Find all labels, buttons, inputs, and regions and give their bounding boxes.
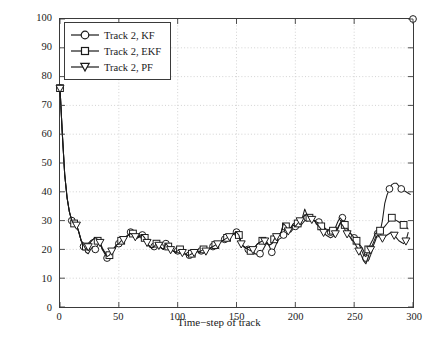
y-tick-label: 70 bbox=[0, 100, 52, 111]
y-tick-label: 20 bbox=[0, 245, 52, 256]
legend-label-ekf: Track 2, EKF bbox=[104, 46, 161, 57]
x-tick-label: 150 bbox=[229, 312, 245, 323]
y-tick-label: 100 bbox=[0, 13, 52, 24]
y-tick-label: 90 bbox=[0, 42, 52, 53]
figure-container: Track 2, KF Track 2, EKF Track 2, PF RMS… bbox=[0, 0, 438, 348]
y-tick-label: 80 bbox=[0, 71, 52, 82]
chart-legend: Track 2, KF Track 2, EKF Track 2, PF bbox=[64, 22, 171, 80]
x-tick-label: 300 bbox=[406, 312, 422, 323]
legend-marker-circle-icon bbox=[70, 28, 100, 42]
legend-label-kf: Track 2, KF bbox=[104, 30, 155, 41]
y-tick-label: 0 bbox=[0, 303, 52, 314]
x-tick-label: 0 bbox=[56, 312, 61, 323]
x-tick-label: 250 bbox=[347, 312, 363, 323]
legend-label-pf: Track 2, PF bbox=[104, 62, 153, 73]
plot-area: Track 2, KF Track 2, EKF Track 2, PF bbox=[59, 18, 414, 308]
x-tick-label: 100 bbox=[169, 312, 185, 323]
y-tick-label: 50 bbox=[0, 158, 52, 169]
y-tick-label: 10 bbox=[0, 274, 52, 285]
x-tick-label: 200 bbox=[288, 312, 304, 323]
y-tick-label: 60 bbox=[0, 129, 52, 140]
y-tick-label: 40 bbox=[0, 187, 52, 198]
legend-marker-triangle-icon bbox=[70, 60, 100, 74]
y-tick-label: 30 bbox=[0, 216, 52, 227]
legend-marker-square-icon bbox=[70, 44, 100, 58]
x-axis-label: Time−step of track bbox=[177, 316, 260, 328]
legend-item-pf: Track 2, PF bbox=[70, 59, 161, 75]
x-tick-label: 50 bbox=[113, 312, 124, 323]
legend-item-ekf: Track 2, EKF bbox=[70, 43, 161, 59]
legend-item-kf: Track 2, KF bbox=[70, 27, 161, 43]
